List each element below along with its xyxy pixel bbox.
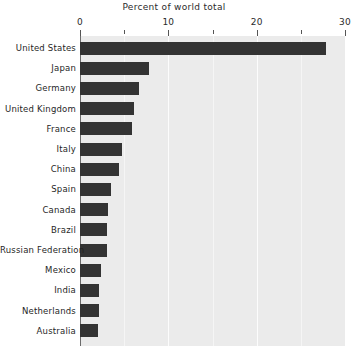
bar <box>80 264 101 277</box>
bar <box>80 143 122 156</box>
x-tick-label: 20 <box>251 17 263 27</box>
category-label: Canada <box>0 206 76 215</box>
category-label: China <box>0 165 76 174</box>
x-axis-tick-labels: 0102030 <box>0 17 348 29</box>
category-label: France <box>0 125 76 134</box>
gridline-major <box>257 36 258 346</box>
gridline-minor <box>213 36 214 346</box>
x-tick-mark-major <box>345 30 346 36</box>
bar <box>80 284 99 297</box>
x-tick-mark-minor <box>213 30 214 34</box>
category-label: Germany <box>0 84 76 93</box>
bar <box>80 223 107 236</box>
bar <box>80 42 326 55</box>
category-label: Russian Federation <box>0 246 76 255</box>
gridline-major <box>168 36 169 346</box>
x-tick-label: 30 <box>339 17 351 27</box>
category-label: Mexico <box>0 266 76 275</box>
chart-title: Percent of world total <box>0 2 348 12</box>
bar <box>80 163 119 176</box>
category-label: Australia <box>0 327 76 336</box>
x-tick-mark-minor <box>301 30 302 34</box>
x-tick-label: 10 <box>162 17 174 27</box>
category-label: Netherlands <box>0 307 76 316</box>
category-label: India <box>0 286 76 295</box>
gridline-minor <box>301 36 302 346</box>
bar <box>80 82 139 95</box>
bar <box>80 304 99 317</box>
category-label: Brazil <box>0 226 76 235</box>
bar <box>80 324 98 337</box>
bar <box>80 203 108 216</box>
category-label: Japan <box>0 64 76 73</box>
category-label: United States <box>0 44 76 53</box>
category-label: United Kingdom <box>0 105 76 114</box>
bar <box>80 122 132 135</box>
bar <box>80 62 149 75</box>
category-label: Spain <box>0 185 76 194</box>
bar <box>80 102 134 115</box>
category-label: Italy <box>0 145 76 154</box>
bar <box>80 183 111 196</box>
x-tick-mark-minor <box>124 30 125 34</box>
x-tick-label: 0 <box>77 17 83 27</box>
